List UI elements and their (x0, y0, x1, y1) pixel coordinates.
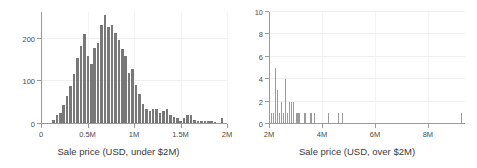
histogram-bar (118, 40, 121, 124)
x-axis-tick-label: 4M (317, 130, 327, 139)
x-axis-tick-label: 1.5M (172, 130, 189, 139)
y-axis-tick (37, 80, 41, 81)
histogram-bar (138, 94, 141, 124)
plot-area-over-2m: 02468102M4M6M8M (269, 12, 465, 124)
y-axis-tick-label: 8 (259, 30, 263, 39)
y-gridline (269, 56, 465, 57)
x-gridline (181, 12, 182, 124)
y-axis-tick-label: 0 (259, 120, 263, 129)
histogram-bar (100, 25, 103, 124)
x-axis-tick (227, 124, 228, 128)
x-axis-title-right: Sale price (USD, over $2M) (237, 146, 477, 157)
x-axis-tick-label: 8M (423, 130, 433, 139)
histogram-bar (155, 109, 158, 124)
histogram-bar (66, 96, 69, 124)
x-axis-tick-label: 2M (222, 130, 232, 139)
histogram-bar (293, 102, 294, 124)
y-axis-tick (265, 56, 269, 57)
histogram-bar (121, 49, 124, 124)
x-axis-tick-label: 0.5M (79, 130, 96, 139)
y-axis-line-right (269, 12, 270, 124)
histogram-bar (76, 58, 79, 124)
x-axis-tick-label: 0 (39, 130, 43, 139)
histogram-bar (87, 56, 90, 124)
histogram-bar (114, 33, 117, 124)
histogram-bar (152, 109, 155, 124)
histogram-bar (111, 25, 114, 124)
y-axis-tick (37, 38, 41, 39)
histogram-bar (107, 27, 110, 124)
histogram-bar (83, 34, 86, 124)
y-gridline (269, 101, 465, 102)
histogram-bar (97, 43, 100, 124)
x-axis-tick (375, 124, 376, 128)
x-axis-tick (134, 124, 135, 128)
y-axis-tick (265, 101, 269, 102)
x-gridline (375, 12, 376, 124)
y-axis-tick (265, 33, 269, 34)
y-axis-tick-label: 10 (255, 8, 263, 17)
y-gridline (269, 78, 465, 79)
x-axis-tick (88, 124, 89, 128)
y-axis-tick (265, 78, 269, 79)
x-axis-tick (428, 124, 429, 128)
y-axis-line-left (41, 12, 42, 124)
x-axis-tick-label: 2M (264, 130, 274, 139)
histogram-bar (145, 109, 148, 124)
x-gridline (322, 12, 323, 124)
y-axis-tick-label: 2 (259, 97, 263, 106)
y-axis-tick-label: 200 (22, 34, 35, 43)
y-axis-tick-label: 100 (22, 77, 35, 86)
histogram-bar (69, 86, 72, 124)
y-axis-tick-label: 4 (259, 75, 263, 84)
plot-inner-over-2m (269, 12, 465, 124)
x-axis-title-left: Sale price (USD, under $2M) (0, 146, 237, 157)
histogram-bar (104, 15, 107, 124)
x-axis-tick-label: 6M (370, 130, 380, 139)
y-axis-tick (265, 11, 269, 12)
plot-inner-under-2m (41, 12, 227, 124)
histogram-bar (131, 69, 134, 124)
y-gridline (269, 33, 465, 34)
histogram-bar (128, 73, 131, 124)
x-axis-tick (181, 124, 182, 128)
histogram-bar (93, 48, 96, 124)
x-axis-tick (41, 124, 42, 128)
histogram-bar (135, 85, 138, 124)
histogram-bar (62, 105, 65, 124)
y-gridline (269, 11, 465, 12)
histogram-bar (142, 104, 145, 124)
two-panel-histogram-figure: 010020000.5M1M1.5M2M Sale price (USD, un… (0, 0, 477, 168)
y-axis-tick-label: 0 (31, 120, 35, 129)
x-gridline (428, 12, 429, 124)
plot-area-under-2m: 010020000.5M1M1.5M2M (41, 12, 227, 124)
x-axis-tick (269, 124, 270, 128)
x-axis-tick (322, 124, 323, 128)
chart-panel-over-2m: 02468102M4M6M8M Sale price (USD, over $2… (237, 0, 477, 168)
y-axis-tick-label: 6 (259, 52, 263, 61)
histogram-bar (80, 46, 83, 124)
x-axis-line-right (269, 123, 465, 124)
histogram-bar (124, 56, 127, 124)
histogram-bar (166, 109, 169, 124)
histogram-bar (73, 74, 76, 124)
x-gridline (227, 12, 228, 124)
histogram-bar (90, 64, 93, 124)
chart-panel-under-2m: 010020000.5M1M1.5M2M Sale price (USD, un… (0, 0, 237, 168)
x-axis-tick-label: 1M (129, 130, 139, 139)
